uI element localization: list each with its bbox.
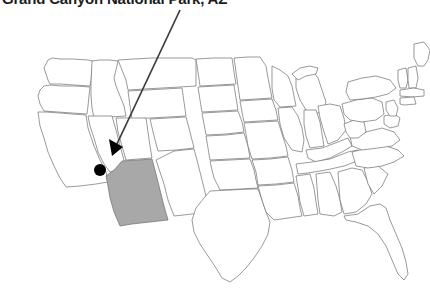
grand-canyon-marker [94, 164, 106, 176]
map-figure: Grand Canyon National Park, AZ [0, 0, 430, 302]
us-map-container [0, 0, 430, 302]
state-outlines [38, 42, 430, 282]
